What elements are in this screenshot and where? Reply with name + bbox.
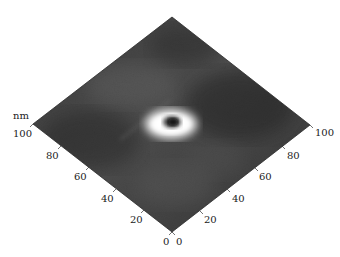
left-axis-tick-0: 0 [163, 237, 169, 247]
right-axis-tick-40: 40 [232, 194, 245, 204]
right-axis-tick-20: 20 [204, 215, 217, 225]
right-axis-tick-80: 80 [287, 151, 300, 161]
left-axis-tick-100: 100 [13, 129, 32, 139]
afm-surface-figure: nm 0 20 40 60 80 100 0 20 40 60 80 100 [0, 0, 340, 257]
right-axis-tick-0: 0 [176, 237, 182, 247]
left-axis-tick-20: 20 [130, 215, 143, 225]
left-axis-tick-80: 80 [46, 151, 59, 161]
surface-plot [0, 0, 340, 257]
right-axis-tick-60: 60 [259, 172, 272, 182]
left-axis-tick-40: 40 [101, 194, 114, 204]
left-axis-tick-60: 60 [74, 172, 87, 182]
z-unit-label: nm [13, 111, 29, 121]
ring-feature [145, 109, 197, 139]
right-axis-tick-100: 100 [315, 128, 334, 138]
surface-texture [30, 15, 315, 235]
